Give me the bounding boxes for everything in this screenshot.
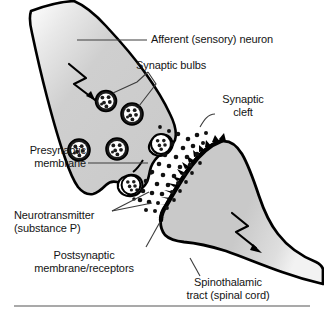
postsynaptic-neuron xyxy=(156,133,323,284)
label-neurotransmitter-line1: Neurotransmitter xyxy=(14,209,94,222)
label-synaptic-cleft-line1: Synaptic xyxy=(210,93,276,106)
label-postsynaptic-line1: Postsynaptic xyxy=(22,249,146,262)
synaptic-vesicle xyxy=(121,103,143,125)
label-spinothalamic-line2: tract (spinal cord) xyxy=(166,289,290,302)
label-presynaptic-membrane-line1: Presynaptic xyxy=(4,144,86,157)
label-synaptic-cleft-line2: cleft xyxy=(210,106,276,119)
label-postsynaptic-line2: membrane/receptors xyxy=(14,262,154,275)
synapse-diagram-figure: Afferent (sensory) neuron Synaptic bulbs… xyxy=(0,0,324,318)
label-neurotransmitter-line2: (substance P) xyxy=(14,222,81,235)
label-synaptic-bulbs: Synaptic bulbs xyxy=(136,59,206,72)
label-presynaptic-membrane-line2: membrane xyxy=(4,157,86,170)
synaptic-vesicle-fusing xyxy=(151,134,171,154)
synaptic-vesicle xyxy=(106,138,128,160)
label-afferent-neuron: Afferent (sensory) neuron xyxy=(151,33,273,46)
postsynaptic-neuron-body xyxy=(161,141,323,284)
synaptic-vesicle xyxy=(96,91,117,112)
label-spinothalamic-line1: Spinothalamic xyxy=(166,276,290,289)
leader-postsynaptic-membrane xyxy=(146,222,160,247)
leader-spinothalamic-tract xyxy=(190,258,200,276)
